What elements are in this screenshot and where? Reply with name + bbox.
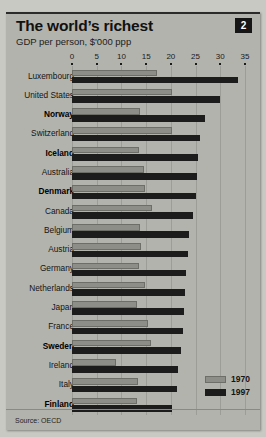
chart-page: The world’s richest GDP per person, $'00… xyxy=(0,0,266,437)
x-tick-mark xyxy=(244,63,246,65)
bar-1970 xyxy=(72,340,151,347)
chart-row: United States xyxy=(6,87,260,106)
bar-1997 xyxy=(72,115,205,122)
category-label: Germany xyxy=(40,263,74,273)
x-tick-label: 10 xyxy=(117,52,126,61)
bar-1970 xyxy=(72,301,137,308)
x-tick-label: 5 xyxy=(94,52,98,61)
chart-row: Norway xyxy=(6,107,260,126)
bar-1970 xyxy=(72,398,137,405)
category-label: Norway xyxy=(44,109,74,119)
bar-1997 xyxy=(72,77,238,84)
chart-row: Canada xyxy=(6,203,260,222)
category-label: Netherlands xyxy=(29,283,74,293)
bar-1970 xyxy=(72,70,157,77)
chart-row: Belgium xyxy=(6,222,260,241)
category-label: Switzerland xyxy=(31,128,74,138)
legend-item: 1970 xyxy=(205,374,250,384)
source-rule xyxy=(6,409,260,410)
category-label: Belgium xyxy=(44,225,74,235)
page-title: The world’s richest xyxy=(16,17,153,35)
bar-1970 xyxy=(72,108,140,115)
bar-1997 xyxy=(72,173,197,180)
x-tick-label: 20 xyxy=(166,52,175,61)
x-tick-label: 0 xyxy=(70,52,74,61)
bar-1997 xyxy=(72,96,220,103)
category-label: Ireland xyxy=(49,360,74,370)
x-tick-label: 25 xyxy=(191,52,200,61)
chart-row: Switzerland xyxy=(6,126,260,145)
legend-label: 1997 xyxy=(231,387,250,397)
x-tick-label: 30 xyxy=(216,52,225,61)
bar-rows: LuxembourgUnited StatesNorwaySwitzerland… xyxy=(6,68,260,415)
category-label: United States xyxy=(24,90,74,100)
category-label: Sweden xyxy=(43,341,74,351)
bar-1997 xyxy=(72,231,189,238)
bar-1997 xyxy=(72,328,183,335)
bar-1970 xyxy=(72,147,139,154)
bar-1970 xyxy=(72,127,172,134)
x-tick-label: 15 xyxy=(142,52,151,61)
x-tick-mark xyxy=(96,63,98,65)
category-label: Canada xyxy=(45,206,74,216)
category-label: Australia xyxy=(42,167,74,177)
bar-1997 xyxy=(72,270,186,277)
bar-1970 xyxy=(72,185,145,192)
x-tick-mark xyxy=(195,63,197,65)
chart-row: Iceland xyxy=(6,145,260,164)
category-label: Iceland xyxy=(45,148,74,158)
x-tick-mark xyxy=(170,63,172,65)
x-tick-mark xyxy=(71,63,73,65)
source-note: Source: OECD xyxy=(15,417,61,424)
bar-1970 xyxy=(72,282,145,289)
x-tick-mark xyxy=(145,63,147,65)
bar-1997 xyxy=(72,289,185,296)
legend: 1970 1997 xyxy=(205,374,250,400)
bar-1997 xyxy=(72,154,198,161)
bar-1997 xyxy=(72,366,178,373)
legend-swatch-1997-icon xyxy=(205,389,226,396)
bar-1970 xyxy=(72,224,140,231)
bar-1997 xyxy=(72,212,193,219)
bar-1970 xyxy=(72,378,138,385)
chart-row: France xyxy=(6,319,260,338)
chart-panel: The world’s richest GDP per person, $'00… xyxy=(6,12,260,430)
bar-1970 xyxy=(72,205,152,212)
x-tick-mark xyxy=(219,63,221,65)
bar-1997 xyxy=(72,386,177,393)
plot-area: 05101520253035 LuxembourgUnited StatesNo… xyxy=(6,52,260,412)
bar-1997 xyxy=(72,308,184,315)
chart-row: Germany xyxy=(6,261,260,280)
legend-swatch-1970-icon xyxy=(205,376,226,383)
bar-1970 xyxy=(72,243,141,250)
category-label: Denmark xyxy=(38,186,74,196)
bar-1997 xyxy=(72,193,196,200)
bar-1970 xyxy=(72,359,116,366)
category-label: Japan xyxy=(51,302,74,312)
category-label: France xyxy=(48,321,74,331)
category-label: Finland xyxy=(45,399,75,409)
chart-row: Austria xyxy=(6,242,260,261)
legend-item: 1997 xyxy=(205,387,250,397)
bar-1997 xyxy=(72,347,181,354)
chart-row: Japan xyxy=(6,300,260,319)
chart-row: Luxembourg xyxy=(6,68,260,87)
bar-1970 xyxy=(72,166,144,173)
legend-label: 1970 xyxy=(231,374,250,384)
bar-1970 xyxy=(72,320,148,327)
chart-row: Denmark xyxy=(6,184,260,203)
category-label: Austria xyxy=(48,244,74,254)
category-label: Luxembourg xyxy=(28,71,74,81)
bar-1970 xyxy=(72,89,172,96)
figure-number-badge: 2 xyxy=(235,18,252,33)
chart-row: Australia xyxy=(6,164,260,183)
bar-1997 xyxy=(72,251,188,258)
bar-1997 xyxy=(72,135,200,142)
chart-row: Netherlands xyxy=(6,280,260,299)
x-tick-mark xyxy=(120,63,122,65)
top-rule xyxy=(6,12,260,14)
bar-1970 xyxy=(72,263,139,270)
chart-subtitle: GDP per person, $'000 ppp xyxy=(16,36,131,47)
chart-row: Sweden xyxy=(6,338,260,357)
x-tick-label: 35 xyxy=(241,52,250,61)
